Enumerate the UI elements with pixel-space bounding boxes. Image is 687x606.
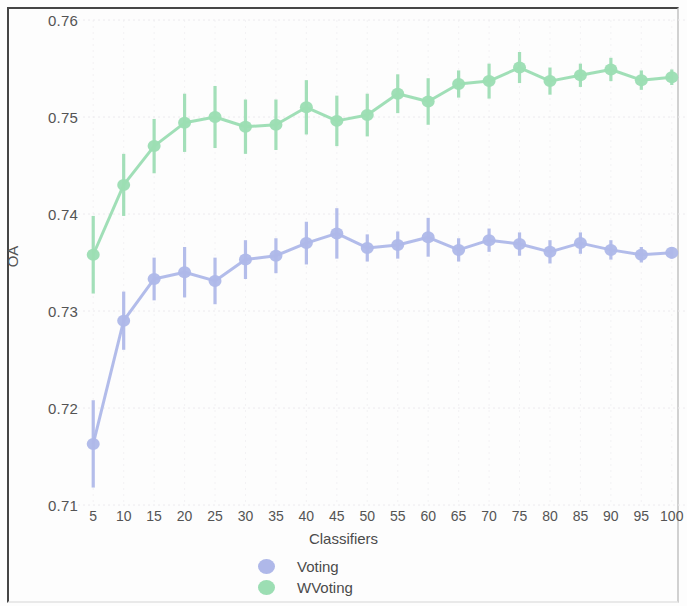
x-tick-label: 70 <box>481 508 497 524</box>
plot-area: OA 0.760.750.740.730.720.71 510152025303… <box>0 0 687 606</box>
series-voting <box>87 208 679 487</box>
x-tick-label: 100 <box>660 508 683 524</box>
legend-item-wvoting: WVoting <box>258 577 458 598</box>
x-tick-label: 85 <box>573 508 589 524</box>
legend-swatch-wvoting <box>258 580 275 595</box>
x-tick-label: 65 <box>451 508 467 524</box>
x-tick-label: 5 <box>89 508 97 524</box>
legend-label-voting: Voting <box>297 558 339 575</box>
x-tick-label: 40 <box>299 508 315 524</box>
x-tick-label: 25 <box>207 508 223 524</box>
x-tick-label: 90 <box>603 508 619 524</box>
x-tick-label: 60 <box>420 508 436 524</box>
x-tick-label: 50 <box>359 508 375 524</box>
legend-label-wvoting: WVoting <box>297 579 353 596</box>
series-wvoting <box>87 52 679 294</box>
x-tick-label: 20 <box>177 508 193 524</box>
legend-swatch-voting <box>258 559 275 574</box>
x-tick-label: 95 <box>634 508 650 524</box>
x-tick-label: 75 <box>512 508 528 524</box>
legend-item-voting: Voting <box>258 556 458 577</box>
x-tick-label: 80 <box>542 508 558 524</box>
gridlines <box>78 20 687 505</box>
x-tick-label: 10 <box>116 508 132 524</box>
chart-figure: OA 0.760.750.740.730.720.71 510152025303… <box>0 0 687 606</box>
x-tick-label: 15 <box>146 508 162 524</box>
x-tick-label: 30 <box>238 508 254 524</box>
x-tick-label: 55 <box>390 508 406 524</box>
x-axis-title: Classifiers <box>0 530 687 547</box>
x-tick-label: 35 <box>268 508 284 524</box>
x-tick-label: 45 <box>329 508 345 524</box>
chart-legend: Voting WVoting <box>258 556 458 598</box>
